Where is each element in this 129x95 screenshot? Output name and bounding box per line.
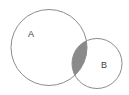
- venn-diagram-canvas: A B: [0, 0, 129, 95]
- venn-diagram: A B: [0, 0, 129, 95]
- set-b-label: B: [101, 60, 107, 70]
- set-a-label: A: [28, 29, 34, 39]
